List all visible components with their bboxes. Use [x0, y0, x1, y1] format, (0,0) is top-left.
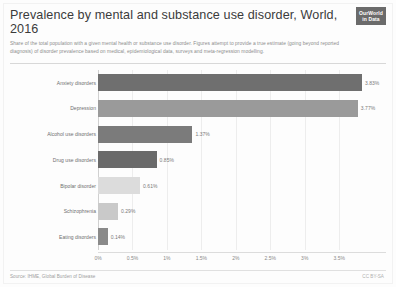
- bar-row[interactable]: Bipolar disorder0.61%: [10, 173, 386, 199]
- bar-track: 1.37%: [98, 121, 386, 147]
- chart-footer: Source: IHME, Global Burden of Disease C…: [10, 274, 386, 286]
- page-title: Prevalence by mental and substance use d…: [10, 8, 344, 37]
- chart-subtitle: Share of the total population with a giv…: [10, 40, 340, 56]
- x-tick-label: 1.5%: [196, 255, 207, 261]
- bar-row[interactable]: Anxiety disorders3.83%: [10, 70, 386, 96]
- plot-area: Anxiety disorders3.83%Depression3.77%Alc…: [10, 70, 386, 250]
- bar[interactable]: [98, 151, 157, 168]
- bar-category-label: Anxiety disorders: [14, 80, 96, 86]
- x-tick-label: 0.5%: [127, 255, 138, 261]
- bar-value-label: 0.29%: [121, 208, 135, 214]
- bar[interactable]: [98, 126, 192, 143]
- bar[interactable]: [98, 177, 140, 194]
- bar[interactable]: [98, 74, 362, 91]
- x-axis: 0%0.5%1%1.5%2%2.5%3%3.5%: [10, 252, 386, 264]
- bar-category-label: Schizophrenia: [14, 208, 96, 214]
- x-tick-label: 0%: [94, 255, 101, 261]
- header-divider: [10, 63, 386, 64]
- chart-header: Prevalence by mental and substance use d…: [10, 8, 386, 56]
- x-tick-label: 2.5%: [265, 255, 276, 261]
- footer-divider: [10, 270, 386, 271]
- bar-value-label: 1.37%: [195, 131, 209, 137]
- x-tick-label: 3.5%: [334, 255, 345, 261]
- our-world-in-data-logo[interactable]: OurWorld in Data: [356, 7, 386, 25]
- bar-track: 0.85%: [98, 147, 386, 173]
- bar-series: Anxiety disorders3.83%Depression3.77%Alc…: [10, 70, 386, 250]
- bar[interactable]: [98, 228, 108, 245]
- bar-track: 0.61%: [98, 173, 386, 199]
- bar[interactable]: [98, 203, 118, 220]
- bar-track: 0.29%: [98, 198, 386, 224]
- license-text[interactable]: CC BY-SA: [362, 274, 384, 279]
- bar-category-label: Depression: [14, 105, 96, 111]
- bar-category-label: Eating disorders: [14, 234, 96, 240]
- bar-category-label: Bipolar disorder: [14, 183, 96, 189]
- bar-track: 0.14%: [98, 224, 386, 250]
- x-tick-label: 1%: [163, 255, 170, 261]
- chart-card: Prevalence by mental and substance use d…: [0, 0, 396, 287]
- bar-value-label: 3.83%: [365, 80, 379, 86]
- bar-row[interactable]: Schizophrenia0.29%: [10, 198, 386, 224]
- logo-line-2: in Data: [356, 16, 386, 22]
- bar-track: 3.77%: [98, 96, 386, 122]
- bar-row[interactable]: Alcohol use disorders1.37%: [10, 121, 386, 147]
- bar-value-label: 0.14%: [111, 234, 125, 240]
- bar-row[interactable]: Eating disorders0.14%: [10, 224, 386, 250]
- bar-row[interactable]: Depression3.77%: [10, 96, 386, 122]
- bar-category-label: Alcohol use disorders: [14, 131, 96, 137]
- bar-value-label: 0.85%: [160, 157, 174, 163]
- bar-category-label: Drug use disorders: [14, 157, 96, 163]
- source-text: Source: IHME, Global Burden of Disease: [10, 274, 95, 279]
- x-tick-label: 3%: [301, 255, 308, 261]
- bar-row[interactable]: Drug use disorders0.85%: [10, 147, 386, 173]
- bar-value-label: 0.61%: [143, 183, 157, 189]
- x-axis-line: [98, 252, 386, 253]
- bar[interactable]: [98, 100, 358, 117]
- x-tick-label: 2%: [232, 255, 239, 261]
- bar-track: 3.83%: [98, 70, 386, 96]
- bar-value-label: 3.77%: [361, 105, 375, 111]
